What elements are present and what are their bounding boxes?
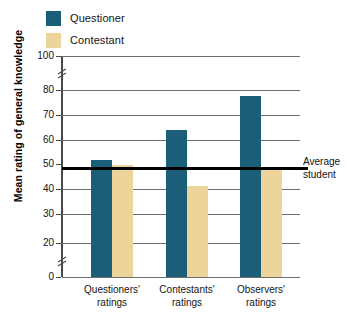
bar-contestant-contestants-ratings[interactable]: [187, 186, 208, 277]
x-label-line1-observers: Observers': [211, 283, 311, 296]
y-tick-20: [56, 243, 61, 244]
y-tick-100: [56, 56, 61, 57]
y-tick-label-60: 60: [28, 134, 54, 145]
gridline-baseline-0: [62, 277, 300, 278]
y-tick-label-50: 50: [28, 158, 54, 169]
legend-swatch-contestant: [46, 33, 61, 48]
legend-item-contestant: Contestant: [46, 30, 125, 50]
y-tick-60: [56, 140, 61, 141]
y-tick-label-100: 100: [28, 50, 54, 61]
y-tick-70: [56, 115, 61, 116]
legend-label-contestant: Contestant: [70, 34, 124, 46]
average-student-annotation-line1: Average: [303, 155, 347, 168]
y-tick-0: [56, 277, 61, 278]
average-student-reference-line: [62, 167, 300, 170]
plot-area: [62, 56, 300, 277]
y-tick-50: [56, 164, 61, 165]
legend-item-questioner: Questioner: [46, 8, 125, 28]
bar-questioner-questioners-ratings[interactable]: [91, 160, 112, 277]
y-tick-40: [56, 189, 61, 190]
y-tick-30: [56, 214, 61, 215]
legend-label-questioner: Questioner: [70, 12, 125, 24]
y-tick-label-30: 30: [28, 208, 54, 219]
y-tick-label-20: 20: [28, 237, 54, 248]
y-axis-title: Mean rating of general knowledge: [12, 16, 24, 216]
y-tick-label-80: 80: [28, 84, 54, 95]
gridline-70: [62, 115, 300, 116]
bar-questioner-observers-ratings[interactable]: [240, 96, 261, 277]
x-axis-label-observers-ratings: Observers' ratings: [211, 283, 311, 309]
bar-questioner-contestants-ratings[interactable]: [166, 130, 187, 277]
gridline-80: [62, 90, 300, 91]
x-label-line2-observers: ratings: [211, 296, 311, 309]
average-student-annotation: Average student: [303, 155, 347, 181]
average-student-annotation-line2: student: [303, 168, 347, 181]
y-tick-label-40: 40: [28, 183, 54, 194]
gridline-100: [62, 56, 300, 57]
y-tick-label-0: 0: [28, 271, 54, 282]
bar-contestant-questioners-ratings[interactable]: [112, 165, 133, 277]
chart-legend: Questioner Contestant: [46, 8, 125, 52]
bar-chart: Questioner Contestant Mean rating of gen…: [0, 0, 347, 316]
bar-contestant-observers-ratings[interactable]: [261, 168, 282, 277]
legend-swatch-questioner: [46, 11, 61, 26]
y-tick-80: [56, 90, 61, 91]
y-tick-label-70: 70: [28, 109, 54, 120]
